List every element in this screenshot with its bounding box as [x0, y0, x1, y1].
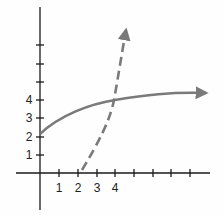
x-tick-label-3: 3 [94, 181, 101, 195]
graph-figure: 1 2 3 4 1 2 3 4 [0, 0, 223, 215]
solid-curve [40, 93, 206, 134]
y-tick-label-2: 2 [26, 130, 33, 144]
y-tick-label-3: 3 [26, 111, 33, 125]
y-tick-label-1: 1 [26, 148, 33, 162]
x-tick-label-1: 1 [56, 181, 63, 195]
x-tick-label-2: 2 [75, 181, 82, 195]
x-tick-label-4: 4 [112, 181, 119, 195]
graph-canvas: 1 2 3 4 1 2 3 4 [0, 0, 223, 215]
y-tick-label-4: 4 [26, 93, 33, 107]
